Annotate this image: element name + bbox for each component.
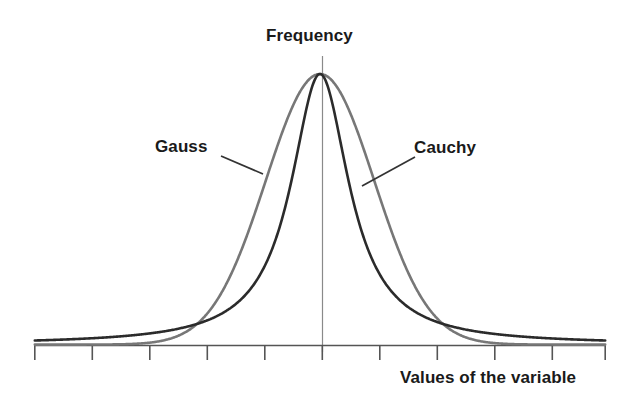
cauchy-annotation-label: Cauchy <box>414 138 476 158</box>
gauss-annotation-label: Gauss <box>155 137 207 157</box>
x-axis-ticks <box>35 346 605 361</box>
x-axis-title: Values of the variable <box>400 368 576 388</box>
cauchy-curve <box>35 74 605 341</box>
gauss-curve <box>35 74 605 345</box>
chart-figure: Frequency Gauss Cauchy Values of the var… <box>0 0 638 414</box>
distribution-plot <box>0 0 638 414</box>
y-axis-title: Frequency <box>266 26 353 46</box>
gauss-leader-line <box>221 156 263 174</box>
